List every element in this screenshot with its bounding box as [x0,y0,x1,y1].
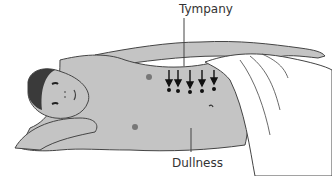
percussion-illustration: Tympany Dullness [0,0,332,176]
eye-lower [52,103,58,104]
tympany-label: Tympany [179,2,233,16]
eye-upper [52,83,58,84]
nipple-upper [146,74,152,80]
dullness-label: Dullness [172,156,223,170]
body-drawing [0,0,332,176]
nipple-lower [132,124,138,130]
